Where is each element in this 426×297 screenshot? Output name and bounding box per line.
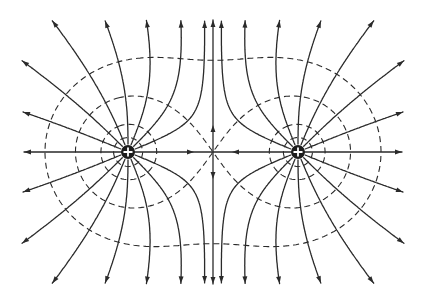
arrowhead-icon — [316, 21, 321, 28]
arrowhead-icon — [396, 187, 403, 192]
arrowhead-icon — [23, 112, 30, 117]
field-line-path — [131, 20, 150, 144]
field-line — [304, 61, 404, 147]
arrowhead-icon — [24, 150, 31, 155]
arrowhead-icon — [242, 21, 247, 28]
field-line — [135, 155, 207, 283]
arrowhead-icon — [219, 21, 224, 28]
arrowhead-icon — [145, 20, 150, 27]
arrowhead-icon — [179, 21, 184, 28]
field-line-path — [304, 158, 404, 244]
field-line-path — [22, 61, 122, 147]
arrowhead-icon — [187, 150, 194, 155]
arrowhead-icon — [105, 21, 110, 28]
arrowhead-icon — [179, 276, 184, 283]
arrowhead-icon — [276, 276, 281, 283]
field-line — [131, 20, 150, 144]
field-line-path — [135, 155, 204, 283]
arrowhead-icon — [395, 150, 402, 155]
field-line — [304, 158, 404, 244]
arrowhead-icon — [276, 20, 281, 27]
arrowhead-icon — [23, 187, 30, 192]
field-line-path — [304, 61, 404, 147]
field-line-path — [131, 159, 150, 283]
arrowhead-icon — [211, 20, 216, 27]
arrowhead-icon — [211, 125, 216, 132]
field-diagram — [0, 0, 426, 297]
field-line-path — [221, 21, 290, 149]
arrowhead-icon — [202, 276, 207, 283]
field-line — [22, 158, 122, 244]
field-line-path — [135, 21, 204, 149]
arrowhead-icon — [202, 21, 207, 28]
field-line-path — [276, 20, 295, 144]
arrowhead-icon — [219, 276, 224, 283]
field-line — [276, 20, 295, 144]
field-line-path — [22, 158, 122, 244]
right-charge — [291, 145, 305, 159]
arrowhead-icon — [105, 276, 110, 283]
arrowhead-icon — [145, 276, 150, 283]
arrowhead-icon — [316, 276, 321, 283]
field-line-path — [276, 159, 295, 283]
arrowhead-icon — [211, 172, 216, 179]
arrowhead-icon — [242, 276, 247, 283]
field-line — [135, 21, 207, 149]
arrowhead-icon — [396, 112, 403, 117]
field-line — [22, 61, 122, 147]
left-charge — [121, 145, 135, 159]
arrowhead-icon — [211, 277, 216, 284]
field-line-path — [221, 155, 290, 283]
field-line — [131, 159, 150, 283]
field-line — [276, 159, 295, 283]
arrowhead-icon — [232, 150, 239, 155]
